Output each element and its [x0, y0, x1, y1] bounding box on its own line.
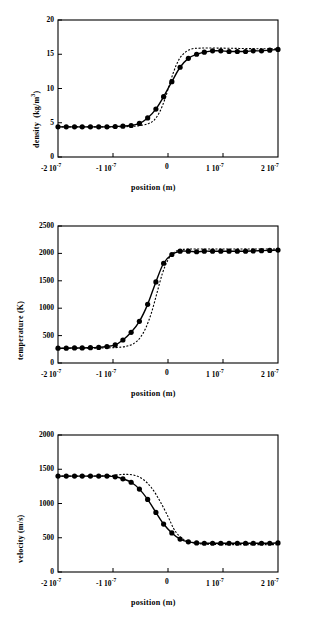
temperature-axes-frame [58, 226, 278, 363]
temperature-theory-curve [58, 249, 278, 348]
temperature-sim-markers [55, 248, 280, 351]
velocity-y-tick-label: 0 [20, 567, 54, 576]
velocity-y-tick-label: 500 [20, 533, 54, 542]
velocity-x-tick-label: 0 [165, 577, 169, 586]
density-x-tick-label: 0 [165, 162, 169, 171]
velocity-axes-frame [58, 435, 278, 572]
temperature-y-tick-label: 0 [20, 358, 54, 367]
temperature-y-ticks [58, 226, 62, 363]
density-y-ticks [58, 20, 62, 157]
density-sim-curve [58, 49, 278, 126]
density-y-tick-label: 0 [20, 152, 54, 161]
density-x-tick-label: 2 10-7 [261, 162, 279, 173]
temperature-x-tick-label: 1 10-7 [206, 368, 224, 379]
density-x-ticks [113, 153, 223, 157]
velocity-theory-curve [58, 474, 278, 544]
temperature-x-tick-label: -1 10-7 [96, 368, 116, 379]
velocity-sim-curve [58, 476, 278, 543]
velocity-x-tick-label: 2 10-7 [261, 577, 279, 588]
velocity-y-tick-label: 1500 [20, 464, 54, 473]
temperature-x-axis-label: position (m) [131, 389, 176, 398]
density-panel: density (kg/m3) position (m) 05101520-2 … [0, 0, 309, 200]
velocity-x-ticks [113, 568, 223, 572]
velocity-y-tick-label: 1000 [20, 499, 54, 508]
velocity-sim-markers [55, 474, 280, 546]
density-y-tick-label: 15 [20, 49, 54, 58]
temperature-x-ticks [113, 359, 223, 363]
temperature-x-tick-label: 0 [165, 368, 169, 377]
velocity-y-ticks [58, 435, 62, 572]
density-x-tick-label: -1 10-7 [96, 162, 116, 173]
density-x-axis-label: position (m) [131, 183, 176, 192]
velocity-y-tick-label: 2000 [20, 430, 54, 439]
density-y-tick-label: 5 [20, 118, 54, 127]
temperature-y-tick-label: 2000 [20, 248, 54, 257]
temperature-y-tick-label: 2500 [20, 221, 54, 230]
density-x-tick-label: 1 10-7 [206, 162, 224, 173]
density-y-tick-label: 20 [20, 15, 54, 24]
temperature-panel: temperature (K) position (m) 05001000150… [0, 200, 309, 405]
temperature-y-tick-label: 1000 [20, 303, 54, 312]
velocity-x-tick-label: -2 10-7 [41, 577, 61, 588]
velocity-x-tick-label: -1 10-7 [96, 577, 116, 588]
temperature-x-tick-label: 2 10-7 [261, 368, 279, 379]
temperature-y-tick-label: 500 [20, 331, 54, 340]
velocity-x-axis-label: position (m) [131, 598, 176, 607]
temperature-x-tick-label: -2 10-7 [41, 368, 61, 379]
figure-three-panel-shock-profiles: density (kg/m3) position (m) 05101520-2 … [0, 0, 309, 617]
density-x-tick-label: -2 10-7 [41, 162, 61, 173]
temperature-y-tick-label: 1500 [20, 276, 54, 285]
density-y-tick-label: 10 [20, 84, 54, 93]
velocity-panel: velocity (m/s) position (m) 050010001500… [0, 405, 309, 617]
temperature-sim-curve [58, 250, 278, 348]
velocity-x-tick-label: 1 10-7 [206, 577, 224, 588]
